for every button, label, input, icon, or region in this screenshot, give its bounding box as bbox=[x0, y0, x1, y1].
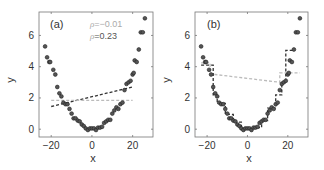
panel-a: −200200246 (a) ρ=−0.01 ρ=0.23 x y bbox=[4, 12, 153, 164]
data-point bbox=[143, 16, 147, 20]
x-axis-label-a: x bbox=[90, 152, 96, 164]
y-tick-label: 2 bbox=[28, 92, 34, 103]
data-point bbox=[204, 60, 208, 64]
data-point bbox=[199, 45, 203, 49]
data-point bbox=[43, 45, 47, 49]
data-point bbox=[53, 73, 57, 77]
data-point bbox=[132, 71, 136, 75]
x-tick-label: 0 bbox=[245, 140, 251, 151]
chart-figure: −200200246 (a) ρ=−0.01 ρ=0.23 x y −20020… bbox=[0, 0, 324, 170]
data-point bbox=[215, 95, 219, 99]
data-point bbox=[256, 125, 260, 129]
data-point bbox=[129, 79, 133, 83]
y-tick-label: 4 bbox=[28, 61, 34, 72]
data-point bbox=[123, 88, 127, 92]
x-tick-label: −20 bbox=[43, 140, 60, 151]
data-point bbox=[296, 30, 300, 34]
data-point bbox=[221, 102, 225, 106]
data-point bbox=[272, 107, 276, 111]
data-point bbox=[292, 48, 296, 52]
x-tick-label: 20 bbox=[282, 140, 294, 151]
panel-label-b: (b) bbox=[207, 18, 220, 30]
data-point bbox=[48, 60, 52, 64]
y-tick-label: 0 bbox=[28, 124, 34, 135]
data-point bbox=[290, 60, 294, 64]
data-point bbox=[135, 60, 139, 64]
data-point bbox=[68, 107, 72, 111]
rho-annotation-2: ρ=0.23 bbox=[89, 31, 117, 41]
data-point bbox=[117, 107, 121, 111]
panel-b: −200200246 (b) x y bbox=[160, 12, 308, 164]
y-tick-label: 2 bbox=[184, 92, 190, 103]
data-point bbox=[287, 71, 291, 75]
y-tick-label: 6 bbox=[184, 30, 190, 41]
data-point bbox=[211, 85, 215, 89]
data-point bbox=[66, 102, 70, 106]
data-point bbox=[225, 112, 229, 116]
y-tick-label: 4 bbox=[184, 61, 190, 72]
data-point bbox=[121, 101, 125, 105]
fit-lines-b bbox=[201, 50, 300, 128]
y-axis-label-a: y bbox=[4, 77, 16, 83]
data-point bbox=[201, 55, 205, 59]
data-point bbox=[298, 16, 302, 20]
data-point bbox=[55, 85, 59, 89]
panel-label-a: (a) bbox=[50, 18, 63, 30]
rho-annotation-1: ρ=−0.01 bbox=[89, 19, 122, 29]
y-tick-label: 6 bbox=[28, 30, 34, 41]
data-point bbox=[45, 55, 49, 59]
y-axis-label-b: y bbox=[160, 77, 172, 83]
x-tick-label: −20 bbox=[199, 140, 216, 151]
data-point bbox=[223, 107, 227, 111]
data-point bbox=[264, 118, 268, 122]
data-point bbox=[100, 125, 104, 129]
data-point bbox=[278, 88, 282, 92]
data-point bbox=[70, 112, 74, 116]
data-point bbox=[141, 30, 145, 34]
data-point bbox=[276, 101, 280, 105]
x-tick-label: 0 bbox=[89, 140, 95, 151]
data-point bbox=[108, 118, 112, 122]
data-point bbox=[284, 79, 288, 83]
y-tick-label: 0 bbox=[184, 124, 190, 135]
data-point bbox=[209, 73, 213, 77]
x-axis-label-b: x bbox=[246, 152, 252, 164]
data-point bbox=[60, 95, 64, 99]
data-point bbox=[137, 48, 141, 52]
data-point bbox=[51, 68, 55, 72]
data-point bbox=[207, 68, 211, 72]
x-tick-label: 20 bbox=[127, 140, 139, 151]
